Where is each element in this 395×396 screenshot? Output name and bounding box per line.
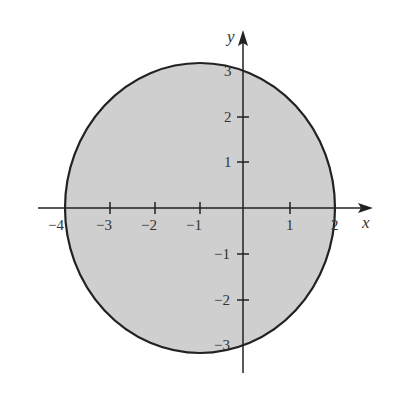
x-tick-label: −4 (48, 217, 64, 233)
x-tick-label: 2 (331, 217, 339, 233)
y-tick-label: −3 (214, 337, 230, 353)
y-tick-label: −1 (214, 246, 230, 262)
x-tick-label: −1 (186, 217, 202, 233)
y-axis-label: y (225, 27, 235, 46)
circle-region-diagram: −4 −3 −2 −1 1 2 3 2 1 −1 −2 −3 x y (0, 0, 395, 396)
y-tick-label: 2 (224, 109, 232, 125)
x-tick-label: 1 (286, 217, 294, 233)
y-tick-label: 3 (224, 63, 232, 79)
x-tick-label: −3 (96, 217, 112, 233)
x-tick-label: −2 (141, 217, 157, 233)
y-tick-label: 1 (224, 154, 232, 170)
y-tick-label: −2 (214, 292, 230, 308)
x-axis-label: x (361, 213, 370, 232)
